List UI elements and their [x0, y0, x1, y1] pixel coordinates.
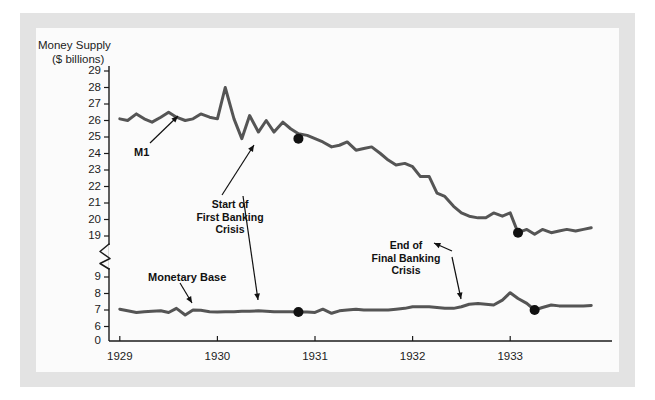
arrow-start-crisis-to-base — [243, 196, 260, 300]
series-line-m1 — [120, 88, 591, 235]
arrow-start-crisis-to-m1 — [222, 145, 254, 195]
arrow-start-crisis-to-base-head — [254, 293, 260, 300]
arrow-end-crisis-to-m1 — [434, 243, 452, 251]
data-point-marker-0 — [293, 134, 303, 144]
data-point-marker-3 — [530, 305, 540, 315]
data-point-marker-1 — [293, 307, 303, 317]
chart-root: Money Supply ($ billions) 29282726252423… — [0, 0, 655, 400]
arrow-end-crisis-to-base-shaft — [452, 257, 461, 299]
arrow-end-crisis-to-base — [452, 257, 462, 299]
data-point-marker-2 — [513, 228, 523, 238]
arrow-start-crisis-to-m1-shaft — [222, 145, 254, 195]
series-line-monetary-base — [120, 293, 591, 315]
axis-break-gap — [108, 245, 110, 268]
arrow-end-crisis-to-base-head — [457, 292, 463, 299]
chart-canvas — [0, 0, 655, 400]
arrow-start-crisis-to-base-shaft — [243, 196, 258, 300]
arrow-start-crisis-to-m1-head — [248, 145, 254, 152]
arrow-monetary-base-to-curve — [180, 283, 192, 303]
